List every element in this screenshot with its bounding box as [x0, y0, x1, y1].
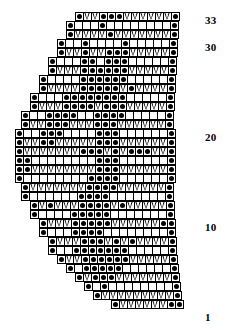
chart-row [111, 300, 183, 309]
chart-cell-dot [168, 246, 177, 255]
chart-cell-dot [168, 237, 177, 246]
chart-cell-dot [167, 75, 176, 84]
chart-cell-dot [165, 183, 174, 192]
chart-row [15, 165, 175, 174]
chart-cell-dot [168, 66, 177, 75]
chart-cell-dot [167, 147, 176, 156]
chart-cell-dot [171, 12, 180, 21]
chart-cell-dot [166, 210, 175, 219]
chart-cell-dot [171, 273, 180, 282]
chart-row [66, 21, 178, 30]
knitting-chart: 333020101 [0, 0, 230, 334]
chart-row [15, 156, 175, 165]
row-number-label: 30 [205, 41, 216, 53]
chart-row [30, 201, 174, 210]
chart-row [75, 273, 179, 282]
chart-row [21, 183, 173, 192]
chart-row [48, 237, 176, 246]
chart-cell-dot [169, 39, 178, 48]
chart-cell-dot [167, 165, 176, 174]
chart-row [15, 129, 175, 138]
chart-cell-dot [170, 30, 179, 39]
chart-row [75, 12, 179, 21]
chart-cell-dot [172, 282, 181, 291]
chart-row [15, 174, 175, 183]
chart-cell-dot [175, 300, 184, 309]
chart-cell-dot [166, 201, 175, 210]
chart-row [57, 255, 177, 264]
chart-cell-dot [169, 48, 178, 57]
chart-row [57, 48, 177, 57]
chart-cell-dot [170, 21, 179, 30]
chart-row [21, 111, 173, 120]
chart-row [57, 39, 177, 48]
chart-row [66, 30, 178, 39]
chart-row [39, 228, 175, 237]
chart-cell-dot [170, 264, 179, 273]
chart-row [48, 66, 176, 75]
chart-cell-dot [165, 111, 174, 120]
chart-row [66, 264, 178, 273]
chart-cell-dot [166, 93, 175, 102]
chart-row [39, 219, 175, 228]
row-number-label: 1 [205, 311, 211, 323]
chart-cell-dot [165, 120, 174, 129]
chart-row [84, 282, 180, 291]
chart-row [21, 120, 173, 129]
chart-row [15, 138, 175, 147]
chart-cell-dot [167, 129, 176, 138]
chart-row [39, 75, 175, 84]
chart-row [30, 102, 174, 111]
chart-cell-dot [167, 219, 176, 228]
chart-cell-dot [165, 192, 174, 201]
chart-row [39, 84, 175, 93]
chart-row [21, 192, 173, 201]
chart-cell-dot [167, 138, 176, 147]
chart-cell-dot [167, 228, 176, 237]
chart-cell-dot [168, 57, 177, 66]
chart-cell-dot [167, 156, 176, 165]
row-number-label: 10 [205, 221, 216, 233]
chart-cell-dot [166, 102, 175, 111]
chart-row [48, 246, 176, 255]
chart-cell-dot [167, 174, 176, 183]
chart-row [30, 210, 174, 219]
row-number-label: 33 [205, 14, 216, 26]
chart-cell-dot [169, 255, 178, 264]
chart-row [15, 147, 175, 156]
row-number-label: 20 [205, 131, 216, 143]
chart-cell-dot [173, 291, 182, 300]
chart-cell-dot [167, 84, 176, 93]
chart-row [93, 291, 181, 300]
chart-row [48, 57, 176, 66]
chart-row [30, 93, 174, 102]
